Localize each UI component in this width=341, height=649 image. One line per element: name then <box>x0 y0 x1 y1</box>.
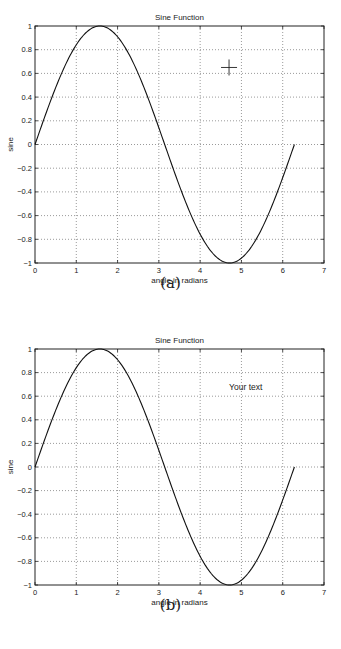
y-tick-label: 1 <box>28 345 32 354</box>
y-tick-label: 1 <box>28 22 32 31</box>
y-tick-label: −0.2 <box>17 486 32 495</box>
figure-b: 0123456710.80.60.40.20−0.2−0.4−0.6−0.8−1… <box>0 323 341 649</box>
y-tick-label: −1 <box>23 581 32 590</box>
figure-a: 0123456710.80.60.40.20−0.2−0.4−0.6−0.8−1… <box>0 0 341 325</box>
y-tick-label: 0 <box>28 463 32 472</box>
y-tick-label: 0.4 <box>22 415 32 424</box>
y-tick-label: −0.8 <box>17 235 32 244</box>
caption-a: (a) <box>0 274 341 292</box>
grid <box>35 349 324 585</box>
y-tick-label: −0.6 <box>17 211 32 220</box>
plot-title: Sine Function <box>155 13 204 22</box>
plot-title: Sine Function <box>155 336 204 345</box>
y-axis-label: sine <box>6 137 15 152</box>
annotation-text: Your text <box>229 382 263 392</box>
sine-plot-a: 0123456710.80.60.40.20−0.2−0.4−0.6−0.8−1… <box>0 0 341 300</box>
y-tick-label: −0.4 <box>17 187 32 196</box>
y-tick-label: −0.8 <box>17 557 32 566</box>
y-axis-label: sine <box>6 459 15 474</box>
y-tick-label: −0.4 <box>17 510 32 519</box>
y-tick-label: 0.4 <box>22 93 32 102</box>
y-tick-label: 0.6 <box>22 392 32 401</box>
grid <box>35 26 324 263</box>
y-tick-label: −0.6 <box>17 533 32 542</box>
y-tick-label: 0.2 <box>22 116 32 125</box>
y-tick-label: −1 <box>23 259 32 268</box>
sine-plot-b: 0123456710.80.60.40.20−0.2−0.4−0.6−0.8−1… <box>0 323 341 623</box>
caption-b: (b) <box>0 596 341 614</box>
y-tick-label: −0.2 <box>17 164 32 173</box>
y-tick-label: 0.2 <box>22 439 32 448</box>
y-tick-label: 0 <box>28 140 32 149</box>
y-tick-label: 0.6 <box>22 69 32 78</box>
y-tick-label: 0.8 <box>22 368 32 377</box>
sine-curve <box>35 26 294 263</box>
y-tick-label: 0.8 <box>22 45 32 54</box>
crosshair-cursor-icon <box>221 59 237 75</box>
